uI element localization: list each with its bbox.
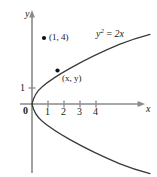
x-axis-arrow-icon [138, 101, 145, 107]
curve-upper-branch [32, 34, 150, 104]
x-tick-label-2: 2 [61, 107, 66, 117]
parabola-figure: y x 0 1 2 3 4 1 (1, 4) (x, y) y2 = 2x [0, 0, 157, 177]
y-tick-label-1: 1 [20, 83, 25, 93]
point-label-x-y: (x, y) [62, 74, 82, 83]
y-axis-label: y [25, 9, 29, 19]
equation-relation: = [104, 28, 115, 39]
equation-rhs: 2x [115, 28, 124, 39]
point-label-1-4: (1, 4) [49, 33, 69, 42]
y-axis-arrow-icon [29, 10, 35, 17]
point-marker-x-y [55, 68, 59, 72]
curve-equation-label: y2 = 2x [96, 28, 124, 39]
x-tick-label-4: 4 [93, 107, 98, 117]
x-tick-label-3: 3 [77, 107, 82, 117]
origin-label: 0 [23, 106, 28, 116]
point-marker-1-4 [42, 36, 46, 40]
x-axis-label: x [146, 104, 150, 114]
x-tick-label-1: 1 [45, 107, 50, 117]
